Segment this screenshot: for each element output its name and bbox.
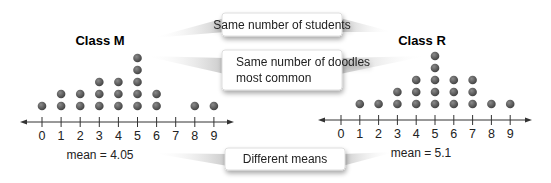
data-dot bbox=[431, 76, 440, 85]
tick-label: 0 bbox=[39, 129, 46, 143]
data-dot bbox=[114, 90, 123, 99]
pointer-different-means-right bbox=[342, 152, 395, 166]
data-dot bbox=[468, 88, 477, 97]
data-dot bbox=[133, 54, 142, 63]
data-dot bbox=[374, 100, 383, 109]
dot-plot-class-r: Class R0123456789mean = 5.1 bbox=[318, 33, 532, 160]
tick-label: 2 bbox=[375, 127, 382, 141]
data-dot bbox=[450, 76, 459, 85]
callout-text: Different means bbox=[243, 152, 328, 166]
data-dot bbox=[450, 88, 459, 97]
data-dot bbox=[431, 64, 440, 73]
tick-label: 1 bbox=[356, 127, 363, 141]
data-dot bbox=[191, 102, 200, 111]
data-dot bbox=[76, 90, 85, 99]
tick-label: 3 bbox=[394, 127, 401, 141]
data-dot bbox=[450, 100, 459, 109]
data-dot bbox=[133, 78, 142, 87]
data-dot bbox=[152, 90, 161, 99]
data-dot bbox=[152, 102, 161, 111]
data-dot bbox=[412, 100, 421, 109]
data-dot bbox=[487, 100, 496, 109]
tick-label: 8 bbox=[488, 127, 495, 141]
data-dot bbox=[431, 52, 440, 61]
data-dot bbox=[412, 76, 421, 85]
data-dot bbox=[356, 100, 365, 109]
data-dot bbox=[57, 90, 66, 99]
tick-label: 1 bbox=[58, 129, 65, 143]
data-dot bbox=[95, 78, 104, 87]
data-dot bbox=[95, 102, 104, 111]
mean-label: mean = 5.1 bbox=[391, 146, 452, 160]
arrow-left-icon bbox=[20, 120, 27, 125]
tick-label: 7 bbox=[469, 127, 476, 141]
data-dot bbox=[431, 100, 440, 109]
data-dot bbox=[133, 90, 142, 99]
data-dot bbox=[468, 100, 477, 109]
data-dot bbox=[431, 88, 440, 97]
plot-title: Class M bbox=[75, 33, 124, 48]
callout-text: Same number of students bbox=[213, 18, 350, 32]
data-dot bbox=[412, 88, 421, 97]
data-dot bbox=[393, 88, 402, 97]
callout-text-line1: Same number of doodles bbox=[236, 55, 370, 69]
tick-label: 6 bbox=[450, 127, 457, 141]
data-dot bbox=[133, 66, 142, 75]
tick-label: 4 bbox=[115, 129, 122, 143]
data-dot bbox=[114, 78, 123, 87]
callout-text-line2: most common bbox=[236, 71, 311, 85]
tick-label: 4 bbox=[413, 127, 420, 141]
data-dot bbox=[114, 102, 123, 111]
dot-plot-class-m: Class M0123456789mean = 4.05 bbox=[20, 33, 234, 162]
data-dot bbox=[38, 102, 47, 111]
arrow-right-icon bbox=[525, 118, 532, 123]
pointer-different-means-left bbox=[152, 153, 228, 166]
arrow-right-icon bbox=[227, 120, 234, 125]
data-dot bbox=[76, 102, 85, 111]
plot-title: Class R bbox=[398, 33, 446, 48]
arrow-left-icon bbox=[318, 118, 325, 123]
mean-label: mean = 4.05 bbox=[66, 148, 133, 162]
tick-label: 9 bbox=[210, 129, 217, 143]
callout-pointers bbox=[145, 18, 426, 166]
tick-label: 9 bbox=[507, 127, 514, 141]
data-dot bbox=[210, 102, 219, 111]
tick-label: 5 bbox=[432, 127, 439, 141]
tick-label: 0 bbox=[338, 127, 345, 141]
data-dot bbox=[95, 90, 104, 99]
callout-same-students: Same number of students bbox=[213, 13, 350, 36]
data-dot bbox=[393, 100, 402, 109]
pointer-same-mode-left bbox=[145, 56, 225, 74]
callout-different-means: Different means bbox=[225, 148, 345, 170]
tick-label: 6 bbox=[153, 129, 160, 143]
tick-label: 7 bbox=[172, 129, 179, 143]
tick-label: 5 bbox=[134, 129, 141, 143]
data-dot bbox=[506, 100, 515, 109]
data-dot bbox=[57, 102, 66, 111]
tick-label: 2 bbox=[77, 129, 84, 143]
tick-label: 3 bbox=[96, 129, 103, 143]
dot-plot-comparison-diagram: Same number of students Same number of d… bbox=[0, 0, 551, 183]
data-dot bbox=[133, 102, 142, 111]
tick-label: 8 bbox=[191, 129, 198, 143]
data-dot bbox=[468, 76, 477, 85]
